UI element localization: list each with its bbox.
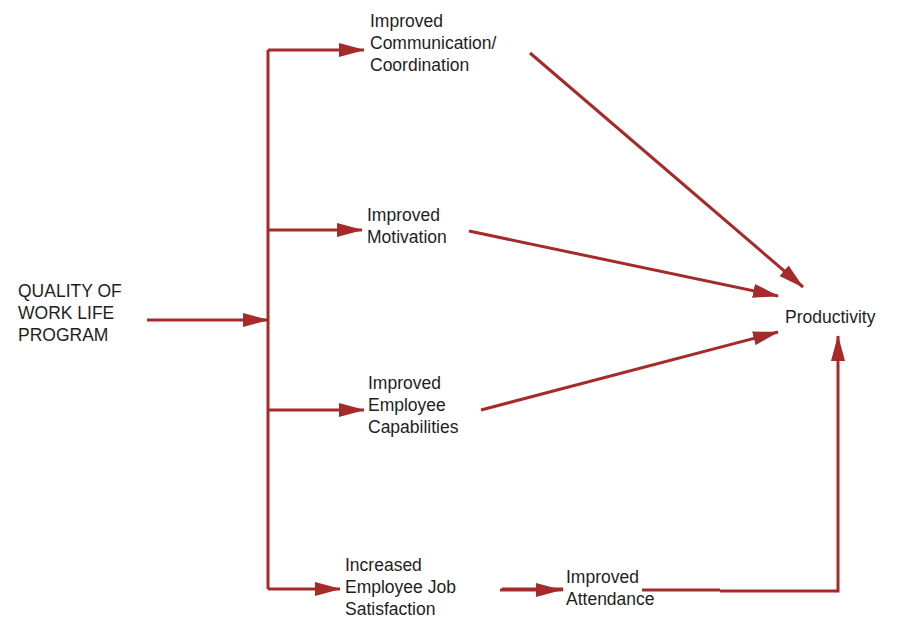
node-label-line: Capabilities	[368, 416, 458, 438]
node-increased-job-satisfaction: Increased Employee Job Satisfaction	[345, 554, 456, 620]
node-label-line: Employee Job	[345, 576, 456, 598]
node-label-line: Employee	[368, 394, 458, 416]
node-label-line: Satisfaction	[345, 598, 456, 620]
arrow-attendance-to-productivity	[720, 336, 838, 591]
node-quality-of-work-life-program: QUALITY OF WORK LIFE PROGRAM	[18, 280, 122, 346]
node-label-line: Increased	[345, 554, 456, 576]
node-improved-communication: Improved Communication/ Coordination	[370, 10, 496, 76]
node-label-line: Coordination	[370, 54, 496, 76]
node-label-line: Improved	[367, 204, 447, 226]
node-label-line: Improved	[566, 566, 655, 588]
node-label-line: Improved	[368, 372, 458, 394]
node-label-line: Productivity	[785, 306, 875, 328]
node-label-line: Motivation	[367, 226, 447, 248]
node-label-line: Improved	[370, 10, 496, 32]
node-label-line: Attendance	[566, 588, 655, 610]
arrow-motivation-to-productivity	[469, 231, 778, 296]
node-productivity: Productivity	[785, 306, 875, 328]
node-improved-capabilities: Improved Employee Capabilities	[368, 372, 458, 438]
node-improved-motivation: Improved Motivation	[367, 204, 447, 248]
connector-lines	[0, 0, 904, 631]
node-label-line: WORK LIFE	[18, 302, 122, 324]
node-label-line: Communication/	[370, 32, 496, 54]
node-improved-attendance: Improved Attendance	[566, 566, 655, 610]
arrow-capabilities-to-productivity	[481, 332, 778, 410]
node-label-line: QUALITY OF	[18, 280, 122, 302]
node-label-line: PROGRAM	[18, 324, 122, 346]
